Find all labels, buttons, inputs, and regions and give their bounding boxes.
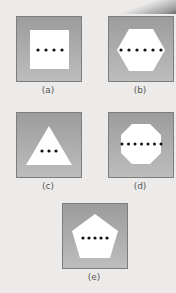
panel-b-label: (b) [108,85,172,95]
panel-a-label: (a) [16,85,80,95]
hexagon-shape-icon [109,17,173,81]
panel-b-hexagon [108,16,174,82]
page-corner-shadow [116,0,176,14]
panel-c-triangle [16,112,82,178]
octagon-shape-icon [109,113,173,177]
triangle-shape-icon [17,113,81,177]
panel-a-square [16,16,82,82]
panel-d-octagon [108,112,174,178]
pentagon-shape-icon [63,204,127,268]
panel-c-label: (c) [16,181,80,191]
panel-d-label: (d) [108,181,172,191]
square-shape-icon [17,17,81,81]
panel-e-pentagon [62,203,128,269]
panel-e-label: (e) [62,272,126,282]
